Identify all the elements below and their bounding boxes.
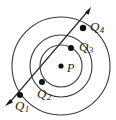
label-Q1-base: Q: [15, 98, 24, 113]
point-P: [58, 63, 63, 68]
label-P-base: P: [67, 61, 74, 75]
label-Q4-subscript: 4: [100, 25, 104, 35]
label-Q3-subscript: 3: [89, 45, 93, 55]
label-Q1-subscript: 1: [25, 104, 29, 114]
label-Q3-base: Q: [79, 39, 88, 54]
label-Q4: Q4: [90, 20, 104, 35]
label-Q2: Q2: [37, 87, 51, 102]
point-Q2: [39, 79, 45, 85]
label-Q2-base: Q: [37, 86, 46, 101]
label-Q1: Q1: [15, 99, 29, 114]
label-Q2-subscript: 2: [47, 92, 51, 102]
physics-diagram-figure: P Q1 Q2 Q3 Q4: [0, 0, 116, 120]
point-Q4: [80, 25, 86, 31]
point-Q3: [68, 45, 74, 51]
label-P: P: [67, 62, 74, 74]
label-Q3: Q3: [79, 40, 93, 55]
label-Q4-base: Q: [90, 19, 99, 34]
